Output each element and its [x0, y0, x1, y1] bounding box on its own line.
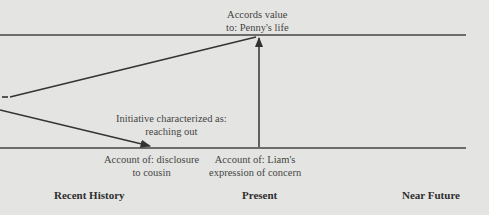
bottom-right-label-line2: expression of concern [209, 166, 301, 179]
top-label: Accords value to: Penny's life [226, 8, 289, 34]
left-tick-mark [2, 96, 8, 98]
top-label-line2: to: Penny's life [226, 21, 289, 34]
bottom-left-label-line1: Account of: disclosure [104, 153, 199, 166]
timeline-present: Present [242, 189, 277, 201]
rising-arrow-line [10, 37, 256, 97]
middle-label-line1: Initiative characterized as: [116, 112, 227, 125]
top-label-line1: Accords value [226, 8, 289, 21]
timeline-near-future: Near Future [402, 189, 460, 201]
middle-label-line2: reaching out [116, 125, 227, 138]
middle-label: Initiative characterized as: reaching ou… [116, 112, 227, 138]
timeline-recent-history: Recent History [54, 189, 125, 201]
bottom-right-label: Account of: Liam's expression of concern [209, 153, 301, 179]
bottom-left-label: Account of: disclosure to cousin [104, 153, 199, 179]
bottom-left-label-line2: to cousin [104, 166, 199, 179]
bottom-right-label-line1: Account of: Liam's [209, 153, 301, 166]
